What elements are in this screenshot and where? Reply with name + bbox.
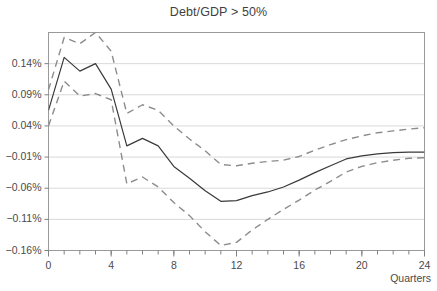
y-tick-label: −0.06% [6,181,42,193]
x-tick-label: 16 [279,259,319,271]
plot-border [49,33,425,251]
y-tick-label: −0.16% [6,244,42,256]
x-tick-label: 12 [217,259,257,271]
y-tick-label: 0.04% [12,119,42,131]
data-series [49,33,425,246]
series-line-lower-confidence-band [49,81,425,245]
series-line-upper-confidence-band [49,33,425,166]
plot-area [0,0,437,291]
x-tick-label: 24 [405,259,437,271]
x-tick-label: 4 [91,259,131,271]
y-tick-label: 0.14% [12,57,42,69]
series-line-point-estimate [49,57,425,201]
x-axis-title: Quarters [390,272,431,284]
x-tick-label: 20 [342,259,382,271]
gridlines [49,64,425,251]
axis-ticks [45,64,425,257]
chart-figure: Debt/GDP > 50% 0.14%0.09%0.04%−0.01%−0.0… [0,0,437,291]
y-tick-label: −0.01% [6,150,42,162]
y-tick-label: −0.11% [6,212,41,224]
y-tick-label: 0.09% [12,88,42,100]
x-tick-label: 8 [154,259,194,271]
x-tick-label: 0 [29,259,69,271]
